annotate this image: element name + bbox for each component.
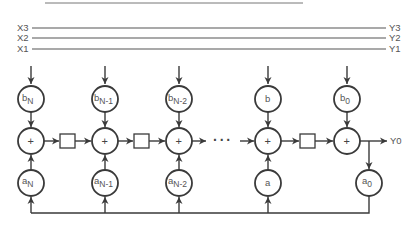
bus-line-x1: X1 Y1 xyxy=(17,43,401,54)
svg-text:+: + xyxy=(176,135,182,147)
bus-input-label: X2 xyxy=(17,32,29,43)
svg-text:+: + xyxy=(344,135,350,147)
bus-line-x2: X2 Y2 xyxy=(17,32,401,43)
svg-text:b: b xyxy=(265,93,270,104)
bus-line-x3: X3 Y3 xyxy=(17,22,401,33)
b-coeff-node-n: bN xyxy=(18,86,44,112)
b-coeff-node-n-1: bN-1 xyxy=(92,86,118,112)
a-coeff-node-n-1: aN-1 xyxy=(92,170,118,196)
b-coeff-node: b xyxy=(255,86,281,112)
b-coeff-node-n-2: bN-2 xyxy=(166,86,192,112)
b-coeff-node-0: b0 xyxy=(334,86,360,112)
delay-box xyxy=(60,134,75,148)
output-label: Y0 xyxy=(390,135,402,146)
fir-iir-filter-diagram: X3 Y3 X2 Y2 X1 Y1 bN bN-1 bN-2 b b0 xyxy=(0,0,419,226)
delay-box xyxy=(300,134,315,148)
adder-node: + xyxy=(255,128,281,154)
svg-text:+: + xyxy=(28,135,34,147)
a-coeff-node-n: aN xyxy=(18,170,44,196)
adder-node: + xyxy=(166,128,192,154)
svg-text:+: + xyxy=(102,135,108,147)
bus-input-label: X1 xyxy=(17,43,29,54)
delay-box xyxy=(134,134,149,148)
svg-text:a: a xyxy=(265,177,271,188)
bus-output-label: Y1 xyxy=(389,43,401,54)
a-coeff-node: a xyxy=(255,170,281,196)
adder-node: + xyxy=(334,128,360,154)
svg-text:+: + xyxy=(265,135,271,147)
feedback-bus xyxy=(31,196,369,213)
bus-output-label: Y2 xyxy=(389,32,401,43)
a-coeff-node-0: a0 xyxy=(356,170,382,196)
adder-node: + xyxy=(18,128,44,154)
ellipsis: ··· xyxy=(213,132,233,148)
adder-node: + xyxy=(92,128,118,154)
a-coeff-node-n-2: aN-2 xyxy=(166,170,192,196)
